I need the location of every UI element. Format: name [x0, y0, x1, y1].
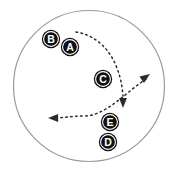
arrow-down-from-top-head	[119, 98, 127, 108]
marker-label: A	[66, 41, 74, 53]
marker-c[interactable]: C	[94, 70, 112, 88]
diagram-canvas: BACED	[0, 0, 178, 171]
marker-a[interactable]: A	[61, 38, 79, 56]
marker-e[interactable]: E	[101, 113, 119, 131]
marker-label: D	[104, 136, 112, 148]
arrow-left-sweep-head	[48, 114, 58, 122]
marker-b[interactable]: B	[42, 30, 60, 48]
marker-label: B	[47, 33, 55, 45]
boundary-circle	[14, 11, 165, 162]
marker-label: E	[106, 116, 113, 128]
arrow-up-right-head	[139, 71, 152, 83]
markers-layer: BACED	[42, 30, 119, 151]
boundary-group	[14, 11, 165, 162]
arrow-up-right	[139, 71, 152, 83]
marker-d[interactable]: D	[99, 133, 117, 151]
diagram-svg: BACED	[0, 0, 178, 171]
marker-label: C	[99, 73, 107, 85]
